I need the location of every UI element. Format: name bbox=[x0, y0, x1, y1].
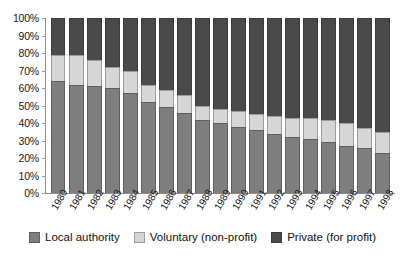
bar-segment-private[interactable] bbox=[69, 18, 84, 55]
legend-item-label: Private (for profit) bbox=[287, 231, 376, 243]
bar-segment-voluntary[interactable] bbox=[339, 123, 354, 146]
x-axis-label-cell: 1993 bbox=[285, 196, 300, 228]
x-axis-label-cell: 1986 bbox=[158, 196, 173, 228]
bar-segment-voluntary[interactable] bbox=[213, 109, 228, 123]
bar-column[interactable] bbox=[141, 18, 156, 193]
y-axis-tick-label: 90% bbox=[19, 30, 39, 42]
bar-segment-voluntary[interactable] bbox=[159, 90, 174, 108]
bar-segment-local-authority[interactable] bbox=[357, 148, 372, 194]
bar-column[interactable] bbox=[87, 18, 102, 193]
legend-item[interactable]: Private (for profit) bbox=[271, 231, 376, 243]
bar-column[interactable] bbox=[105, 18, 120, 193]
bar-segment-local-authority[interactable] bbox=[123, 93, 138, 193]
bar-segment-voluntary[interactable] bbox=[195, 106, 210, 120]
bar-column[interactable] bbox=[267, 18, 282, 193]
bar-segment-private[interactable] bbox=[87, 18, 102, 60]
bar-segment-voluntary[interactable] bbox=[375, 132, 390, 153]
bar-segment-private[interactable] bbox=[267, 18, 282, 116]
x-axis-label-cell: 1981 bbox=[68, 196, 83, 228]
bar-segment-local-authority[interactable] bbox=[213, 123, 228, 193]
bar-segment-private[interactable] bbox=[375, 18, 390, 132]
bar-segment-local-authority[interactable] bbox=[195, 120, 210, 194]
chart-legend: Local authorityVoluntary (non-profit)Pri… bbox=[0, 231, 405, 243]
bar-segment-voluntary[interactable] bbox=[267, 116, 282, 134]
bar-segment-voluntary[interactable] bbox=[321, 120, 336, 143]
x-axis-label-cell: 1996 bbox=[339, 196, 354, 228]
bar-segment-local-authority[interactable] bbox=[321, 142, 336, 193]
bar-segment-voluntary[interactable] bbox=[87, 60, 102, 86]
bar-column[interactable] bbox=[231, 18, 246, 193]
bar-segment-private[interactable] bbox=[357, 18, 372, 128]
y-axis-tick-label: 60% bbox=[19, 82, 39, 94]
bar-segment-private[interactable] bbox=[123, 18, 138, 71]
bar-column[interactable] bbox=[303, 18, 318, 193]
bar-column[interactable] bbox=[51, 18, 66, 193]
y-axis-tick-label: 80% bbox=[19, 47, 39, 59]
bar-column[interactable] bbox=[321, 18, 336, 193]
bar-segment-private[interactable] bbox=[339, 18, 354, 123]
bar-segment-voluntary[interactable] bbox=[69, 55, 84, 85]
y-axis-tick-label: 0% bbox=[24, 187, 39, 199]
x-axis-label-cell: 1992 bbox=[267, 196, 282, 228]
bar-segment-private[interactable] bbox=[303, 18, 318, 118]
bar-segment-voluntary[interactable] bbox=[105, 67, 120, 88]
legend-item-label: Local authority bbox=[45, 231, 120, 243]
bar-segment-private[interactable] bbox=[321, 18, 336, 120]
y-tick-mark bbox=[42, 193, 46, 194]
bar-segment-local-authority[interactable] bbox=[87, 86, 102, 193]
bar-segment-voluntary[interactable] bbox=[123, 71, 138, 94]
bar-segment-local-authority[interactable] bbox=[339, 146, 354, 193]
bar-segment-local-authority[interactable] bbox=[249, 130, 264, 193]
plot-area: 0%10%20%30%40%50%60%70%80%90%100% bbox=[45, 18, 395, 194]
bar-column[interactable] bbox=[213, 18, 228, 193]
x-axis-label-cell: 1983 bbox=[104, 196, 119, 228]
bar-column[interactable] bbox=[177, 18, 192, 193]
bar-segment-local-authority[interactable] bbox=[69, 85, 84, 194]
y-axis-tick-label: 50% bbox=[19, 100, 39, 112]
bar-segment-private[interactable] bbox=[249, 18, 264, 114]
bar-segment-private[interactable] bbox=[105, 18, 120, 67]
x-axis-label-cell: 1985 bbox=[140, 196, 155, 228]
bar-segment-local-authority[interactable] bbox=[51, 81, 66, 193]
bar-segment-local-authority[interactable] bbox=[267, 134, 282, 194]
legend-item[interactable]: Voluntary (non-profit) bbox=[134, 231, 257, 243]
bar-segment-private[interactable] bbox=[213, 18, 228, 109]
bar-segment-voluntary[interactable] bbox=[177, 95, 192, 113]
bar-segment-private[interactable] bbox=[195, 18, 210, 106]
bars-container bbox=[46, 18, 395, 193]
bar-segment-local-authority[interactable] bbox=[105, 88, 120, 193]
bar-segment-private[interactable] bbox=[231, 18, 246, 111]
bar-segment-voluntary[interactable] bbox=[303, 118, 318, 139]
bar-segment-local-authority[interactable] bbox=[231, 127, 246, 194]
bar-segment-private[interactable] bbox=[177, 18, 192, 95]
bar-segment-private[interactable] bbox=[285, 18, 300, 118]
bar-segment-voluntary[interactable] bbox=[51, 55, 66, 81]
y-axis-tick-label: 20% bbox=[19, 152, 39, 164]
bar-column[interactable] bbox=[69, 18, 84, 193]
bar-segment-private[interactable] bbox=[141, 18, 156, 85]
x-axis-label-cell: 1997 bbox=[357, 196, 372, 228]
x-axis-labels: 1980198119821983198419851986198719881989… bbox=[45, 196, 395, 228]
legend-item[interactable]: Local authority bbox=[29, 231, 120, 243]
bar-column[interactable] bbox=[123, 18, 138, 193]
bar-segment-voluntary[interactable] bbox=[231, 111, 246, 127]
bar-column[interactable] bbox=[159, 18, 174, 193]
bar-segment-local-authority[interactable] bbox=[141, 102, 156, 193]
bar-segment-private[interactable] bbox=[51, 18, 66, 55]
bar-segment-local-authority[interactable] bbox=[285, 137, 300, 193]
bar-column[interactable] bbox=[285, 18, 300, 193]
bar-segment-local-authority[interactable] bbox=[159, 107, 174, 193]
bar-segment-private[interactable] bbox=[159, 18, 174, 90]
bar-segment-voluntary[interactable] bbox=[285, 118, 300, 137]
bar-segment-voluntary[interactable] bbox=[141, 85, 156, 103]
bar-segment-local-authority[interactable] bbox=[375, 153, 390, 193]
bar-segment-local-authority[interactable] bbox=[303, 139, 318, 193]
bar-segment-local-authority[interactable] bbox=[177, 113, 192, 194]
bar-column[interactable] bbox=[195, 18, 210, 193]
bar-column[interactable] bbox=[339, 18, 354, 193]
bar-column[interactable] bbox=[249, 18, 264, 193]
bar-segment-voluntary[interactable] bbox=[249, 114, 264, 130]
bar-column[interactable] bbox=[375, 18, 390, 193]
bar-column[interactable] bbox=[357, 18, 372, 193]
bar-segment-voluntary[interactable] bbox=[357, 128, 372, 147]
